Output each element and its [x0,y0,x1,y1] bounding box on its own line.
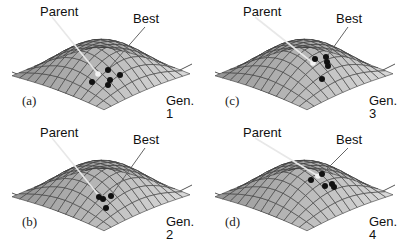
panel-tag: (c) [225,94,239,107]
offspring-point [308,177,314,183]
surface-grid [215,160,393,231]
panel-c: ParentBest(c)Gen. 3 [203,0,406,121]
panel-tag: (d) [225,215,240,228]
panel-d: ParentBest(d)Gen. 4 [203,121,406,242]
offspring-point [312,56,318,62]
offspring-point [319,76,325,82]
offspring-point [325,63,331,69]
parent-label: Parent [40,5,78,18]
best-label: Best [133,133,159,146]
panel-tag: (a) [22,94,36,107]
generation-label: Gen. 1 [166,94,203,120]
parent-label: Parent [40,126,78,139]
generation-label: Gen. 3 [369,94,406,120]
panel-b: ParentBest(b)Gen. 2 [0,121,203,242]
offspring-point [105,82,111,88]
best-label: Best [336,12,362,25]
offspring-point [322,183,328,189]
best-label: Best [133,12,159,25]
offspring-point [331,184,337,190]
surface-grid [12,39,190,110]
offspring-point [117,72,123,78]
offspring-point [105,67,111,73]
surface-grid [215,39,393,110]
offspring-point [89,79,95,85]
best-label: Best [336,133,362,146]
offspring-point [108,193,114,199]
offspring-point [103,205,109,211]
parent-point [95,71,101,77]
offspring-point [319,171,325,177]
panel-a: ParentBest(a)Gen. 1 [0,0,203,121]
best-pointer-line [325,148,348,171]
parent-label: Parent [243,5,281,18]
offspring-point [323,54,329,60]
panel-tag: (b) [22,215,37,228]
offspring-point [100,196,106,202]
generation-label: Gen. 4 [369,215,406,241]
generation-label: Gen. 2 [166,215,203,241]
figure: ParentBest(a)Gen. 1 ParentBest(c)Gen. 3 … [0,0,406,242]
parent-label: Parent [243,126,281,139]
